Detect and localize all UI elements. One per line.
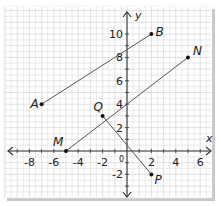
coordinate-plane: -8-6-4-2246-22468100xy ABMNQP xyxy=(0,0,221,206)
coordinate-plane-figure: -8-6-4-2246-22468100xy ABMNQP xyxy=(0,0,221,206)
point-label-M: M xyxy=(53,135,64,149)
y-tick-label: 4 xyxy=(116,98,123,111)
y-tick-label: -2 xyxy=(112,168,123,181)
x-tick-label: 4 xyxy=(172,156,179,169)
point-label-P: P xyxy=(154,173,162,187)
x-axis-label: x xyxy=(205,132,213,145)
x-tick-label: -6 xyxy=(48,156,59,169)
x-tick-label: -4 xyxy=(73,156,84,169)
y-axis-label: y xyxy=(134,9,142,22)
y-tick-label: 6 xyxy=(116,75,123,88)
point-label-A: A xyxy=(30,97,39,111)
point-label-N: N xyxy=(193,44,202,58)
point-P xyxy=(149,172,153,176)
x-tick-label: 2 xyxy=(148,156,155,169)
point-Q xyxy=(101,114,105,118)
x-tick-label: -8 xyxy=(24,156,35,169)
x-tick-label: -2 xyxy=(97,156,108,169)
point-N xyxy=(186,55,190,59)
y-tick-label: 10 xyxy=(109,28,123,41)
x-tick-label: 6 xyxy=(197,156,204,169)
point-label-Q: Q xyxy=(94,100,103,114)
origin-label: 0 xyxy=(119,155,124,164)
point-label-B: B xyxy=(155,25,163,39)
point-M xyxy=(64,149,68,153)
point-A xyxy=(40,102,44,106)
point-B xyxy=(149,32,153,36)
